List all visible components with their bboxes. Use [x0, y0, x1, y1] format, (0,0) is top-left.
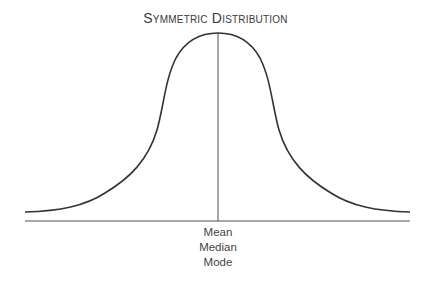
center-labels: Mean Median Mode [168, 225, 268, 270]
label-mode: Mode [168, 255, 268, 270]
label-median: Median [168, 240, 268, 255]
label-mean: Mean [168, 225, 268, 240]
